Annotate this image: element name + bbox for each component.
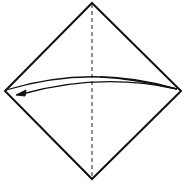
- origami-diagram: [0, 0, 186, 185]
